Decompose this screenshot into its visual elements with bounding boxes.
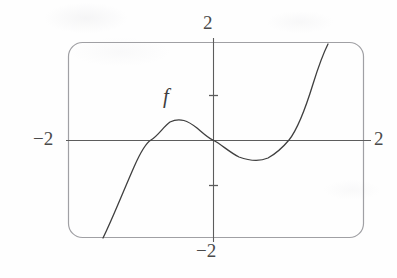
curve-label-f: f	[163, 86, 169, 107]
axis-label-x-min: −2	[33, 129, 53, 148]
axis-label-x-max: 2	[374, 129, 384, 148]
graph-plot	[0, 0, 397, 278]
axis-label-y-min: −2	[196, 241, 216, 260]
figure-canvas: 2 −2 −2 2 f	[0, 0, 397, 278]
axis-label-y-max: 2	[203, 13, 213, 32]
